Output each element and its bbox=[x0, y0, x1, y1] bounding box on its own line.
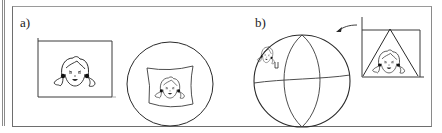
panel-b-triangle-image bbox=[362, 17, 424, 77]
panel-a-flat-image bbox=[38, 38, 116, 97]
panel-a-circle-projection bbox=[127, 42, 213, 126]
projection-arrow-icon bbox=[336, 25, 357, 32]
figure-illustration bbox=[0, 0, 442, 133]
panel-b-sphere bbox=[254, 35, 350, 127]
